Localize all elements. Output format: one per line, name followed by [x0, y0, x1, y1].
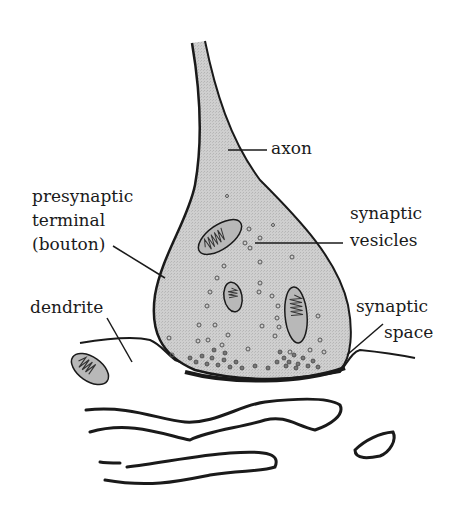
presynaptic-terminal: [154, 41, 351, 379]
mitochondrion-dendrite: [66, 347, 114, 391]
label-axon: axon: [271, 138, 312, 159]
extracellular-fibers: [86, 399, 394, 483]
synapse-diagram: axon presynaptic terminal (bouton) synap…: [0, 0, 466, 524]
label-synaptic-space-2: space: [384, 322, 433, 343]
label-vesicles-1: synaptic: [350, 203, 422, 224]
label-vesicles-2: vesicles: [350, 230, 418, 251]
synapse-illustration: [0, 0, 466, 524]
label-presynaptic-1: presynaptic: [32, 186, 133, 207]
label-synaptic-space-1: synaptic: [356, 296, 428, 317]
label-presynaptic-3: (bouton): [32, 234, 105, 255]
label-dendrite: dendrite: [30, 297, 103, 318]
label-presynaptic-2: terminal: [32, 210, 105, 231]
presynaptic-leader: [113, 246, 165, 278]
dendrite-leader: [107, 318, 132, 362]
